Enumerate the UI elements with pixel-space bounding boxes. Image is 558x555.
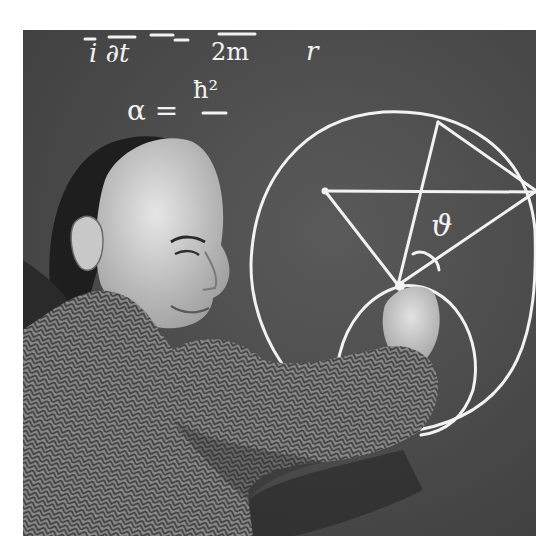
photograph: i ∂t 2m r α = ħ² ϑ (23, 30, 536, 536)
photo-scene (23, 30, 536, 536)
equation-top-lhs: i ∂t (89, 38, 129, 68)
angle-label-theta: ϑ (431, 208, 452, 243)
equation-top-rhs: r (306, 36, 318, 66)
chalk-point-center (322, 188, 329, 195)
equation-alpha-numerator: ħ² (193, 76, 218, 104)
equation-alpha-lhs: α = (127, 94, 178, 127)
ear (71, 216, 103, 270)
equation-top-middle: 2m (211, 38, 249, 66)
